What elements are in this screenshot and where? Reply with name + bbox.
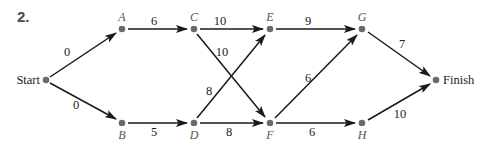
label-f: F xyxy=(265,128,274,142)
weight-g-finish: 7 xyxy=(399,37,405,51)
node-f xyxy=(267,120,274,127)
label-finish: Finish xyxy=(443,73,475,87)
weight-h-finish: 10 xyxy=(394,107,407,121)
label-d: D xyxy=(189,128,199,142)
weight-d-e: 8 xyxy=(206,84,212,98)
node-e xyxy=(267,26,274,33)
network-diagram: 0 0 6 5 10 10 8 8 9 6 6 7 10 Start A B C… xyxy=(0,0,489,146)
label-e: E xyxy=(265,10,274,24)
label-h: H xyxy=(357,128,368,142)
weight-a-c: 6 xyxy=(151,14,157,28)
node-a xyxy=(119,26,126,33)
node-labels: Start A B C D E F G H Finish xyxy=(16,10,475,142)
weight-e-g: 9 xyxy=(305,14,311,28)
edges xyxy=(50,29,430,123)
label-a: A xyxy=(117,10,126,24)
weight-f-g: 6 xyxy=(305,71,311,85)
weight-c-f: 10 xyxy=(216,45,229,59)
node-h xyxy=(359,120,366,127)
weight-f-h: 6 xyxy=(309,125,315,139)
node-start xyxy=(43,77,50,84)
weight-c-e: 10 xyxy=(214,14,227,28)
edge-start-b xyxy=(50,83,116,119)
node-finish xyxy=(433,77,440,84)
edge-start-a xyxy=(50,33,116,77)
label-g: G xyxy=(358,10,367,24)
weight-d-f: 8 xyxy=(226,125,232,139)
label-c: C xyxy=(190,10,199,24)
node-g xyxy=(359,26,366,33)
node-d xyxy=(191,120,198,127)
label-b: B xyxy=(118,128,126,142)
weight-b-d: 5 xyxy=(151,125,157,139)
weight-start-b: 0 xyxy=(73,98,79,112)
node-c xyxy=(191,26,198,33)
weight-start-a: 0 xyxy=(64,45,70,59)
label-start: Start xyxy=(16,73,40,87)
edge-f-g xyxy=(275,35,357,118)
node-b xyxy=(119,120,126,127)
